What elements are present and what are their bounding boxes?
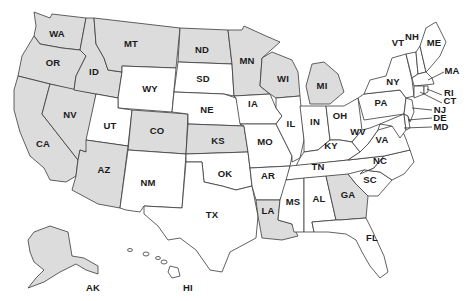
label-ms: MS [286, 197, 301, 207]
label-nm: NM [140, 178, 155, 188]
label-ny: NY [386, 77, 400, 87]
label-pa: PA [375, 98, 388, 108]
state-hi[interactable] [128, 249, 181, 279]
state-ri[interactable] [424, 86, 428, 94]
label-ca: CA [36, 139, 50, 149]
label-ma: MA [444, 66, 459, 76]
label-il: IL [287, 119, 296, 129]
label-mt: MT [124, 39, 138, 49]
label-mi: MI [317, 81, 328, 91]
label-vt: VT [392, 38, 405, 48]
label-co: CO [150, 126, 165, 136]
label-va: VA [376, 135, 389, 145]
label-tx: TX [206, 210, 219, 220]
label-ne: NE [200, 105, 214, 115]
label-ga: GA [341, 190, 356, 200]
label-in: IN [310, 117, 320, 127]
label-mn: MN [239, 56, 254, 66]
label-wa: WA [49, 29, 65, 39]
label-az: AZ [97, 165, 110, 175]
label-id: ID [89, 67, 99, 77]
label-ut: UT [103, 121, 116, 131]
label-hi: HI [183, 283, 193, 293]
state-fl[interactable] [312, 218, 388, 278]
label-sd: SD [196, 74, 210, 84]
label-wy: WY [142, 84, 158, 94]
label-ok: OK [218, 169, 233, 179]
label-or: OR [46, 58, 61, 68]
label-ak: AK [86, 283, 100, 293]
label-ky: KY [324, 141, 338, 151]
label-fl: FL [366, 233, 378, 243]
state-ak[interactable] [28, 226, 98, 288]
state-ia[interactable] [234, 94, 282, 124]
label-tn: TN [311, 162, 324, 172]
label-nd: ND [195, 45, 209, 55]
label-nc: NC [373, 156, 387, 166]
label-mo: MO [257, 137, 273, 147]
label-nh: NH [405, 32, 419, 42]
label-md: MD [433, 122, 448, 132]
label-me: ME [427, 38, 442, 48]
label-oh: OH [333, 111, 348, 121]
label-al: AL [312, 194, 325, 204]
label-la: LA [261, 206, 274, 216]
label-ks: KS [211, 136, 225, 146]
label-ia: IA [248, 99, 258, 109]
label-ar: AR [261, 171, 275, 181]
label-wv: WV [350, 127, 366, 137]
label-sc: SC [363, 175, 377, 185]
label-nv: NV [63, 110, 77, 120]
label-wi: WI [277, 74, 289, 84]
state-ct[interactable] [414, 86, 424, 98]
